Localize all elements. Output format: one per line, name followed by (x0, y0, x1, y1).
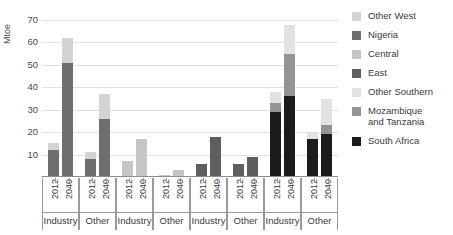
x-axis-baseline (42, 176, 338, 177)
x-group-inner: 20122040Other (154, 178, 189, 230)
x-group-label: Other (80, 213, 115, 229)
legend: Other WestNigeriaCentralEastOther Southe… (352, 10, 452, 154)
bar (122, 161, 134, 177)
y-tick-label: 50 (16, 60, 38, 70)
x-group: 20122040Other (79, 178, 116, 230)
x-tickmark (106, 178, 107, 183)
x-tick-year: 2012 (160, 179, 172, 211)
x-tickmark (240, 178, 241, 183)
x-tick-year: 2040 (63, 179, 75, 211)
x-group-label: Industry (117, 213, 152, 229)
legend-item[interactable]: Central (352, 48, 452, 59)
bar (270, 92, 282, 177)
x-group-inner: 20122040Industry (191, 178, 226, 230)
gridline (42, 20, 338, 21)
x-tickmark (203, 178, 204, 183)
bar-segment (270, 92, 282, 103)
legend-item[interactable]: Nigeria (352, 29, 452, 40)
x-tick-year: 2012 (123, 179, 135, 211)
bar-segment (210, 137, 222, 177)
x-group: 20122040Other (301, 178, 338, 230)
x-group-label: Other (302, 213, 337, 229)
x-tickmark (254, 178, 255, 183)
legend-item[interactable]: South Africa (352, 135, 452, 146)
legend-item[interactable]: East (352, 67, 452, 78)
x-tickmark (69, 178, 70, 183)
bar-segment (321, 125, 333, 134)
legend-item[interactable]: Other Southern (352, 86, 452, 97)
x-tickmark (55, 178, 56, 183)
x-tick-year: 2012 (49, 179, 61, 211)
bar-segment (122, 161, 134, 177)
bar (284, 25, 296, 178)
bar-chart: Mtoe 10203040506070 20122040Industry2012… (0, 0, 453, 235)
x-tickmark (217, 178, 218, 183)
x-group-label: Other (154, 213, 189, 229)
legend-swatch (352, 50, 361, 59)
legend-label: Central (368, 48, 399, 59)
x-group-inner: 20122040Industry (43, 178, 78, 230)
x-tickmark (129, 178, 130, 183)
y-axis-title: Mtoe (2, 14, 16, 54)
x-tickmark (314, 178, 315, 183)
legend-swatch (352, 12, 361, 21)
x-tick-year: 2040 (285, 179, 297, 211)
y-tick-label: 10 (16, 150, 38, 160)
legend-item[interactable]: Mozambique and Tanzania (352, 105, 452, 127)
legend-label: Nigeria (368, 29, 398, 40)
legend-item[interactable]: Other West (352, 10, 452, 21)
bar (307, 132, 319, 177)
bar-segment (99, 119, 111, 177)
x-tick-year: 2012 (271, 179, 283, 211)
x-tick-year: 2012 (308, 179, 320, 211)
bar (48, 143, 60, 177)
x-group-label: Industry (191, 213, 226, 229)
legend-swatch (352, 88, 361, 97)
bar-segment (196, 164, 208, 177)
x-group-label: Industry (43, 213, 78, 229)
legend-label: South Africa (368, 135, 419, 146)
bar-segment (247, 157, 259, 177)
x-axis-labels: 20122040Industry20122040Other20122040Ind… (42, 178, 338, 230)
bar-segment (284, 96, 296, 177)
bar (196, 164, 208, 177)
bar (321, 99, 333, 178)
bar-segment (233, 164, 245, 177)
bar-segment (62, 63, 74, 177)
x-group: 20122040Other (227, 178, 264, 230)
plot-area (42, 20, 338, 177)
bar-segment (284, 25, 296, 54)
x-tickmark (180, 178, 181, 183)
bar-segment (307, 139, 319, 177)
y-tick-label: 20 (16, 127, 38, 137)
bar (62, 38, 74, 177)
x-tick-year: 2040 (174, 179, 186, 211)
x-tickmark (328, 178, 329, 183)
legend-label: Other West (368, 10, 416, 21)
x-tickmark (166, 178, 167, 183)
y-tick-label: 30 (16, 105, 38, 115)
x-tickmark (291, 178, 292, 183)
x-tick-year: 2012 (86, 179, 98, 211)
legend-swatch (352, 31, 361, 40)
bar-segment (307, 132, 319, 139)
x-tickmark (92, 178, 93, 183)
x-tick-year: 2040 (100, 179, 112, 211)
legend-label: East (368, 67, 387, 78)
x-group-inner: 20122040Other (228, 178, 263, 230)
x-tick-year: 2012 (197, 179, 209, 211)
legend-swatch (352, 107, 361, 116)
y-tick-label: 70 (16, 15, 38, 25)
y-tick-label: 60 (16, 37, 38, 47)
bar-segment (48, 150, 60, 177)
x-group-inner: 20122040Other (80, 178, 115, 230)
x-tickmark (277, 178, 278, 183)
legend-swatch (352, 137, 361, 146)
x-group: 20122040Industry (116, 178, 153, 230)
x-group-inner: 20122040Industry (265, 178, 300, 230)
legend-swatch (352, 69, 361, 78)
bar-segment (321, 99, 333, 126)
bar-segment (62, 38, 74, 63)
x-group: 20122040Industry (42, 178, 79, 230)
x-group-inner: 20122040Other (302, 178, 337, 230)
